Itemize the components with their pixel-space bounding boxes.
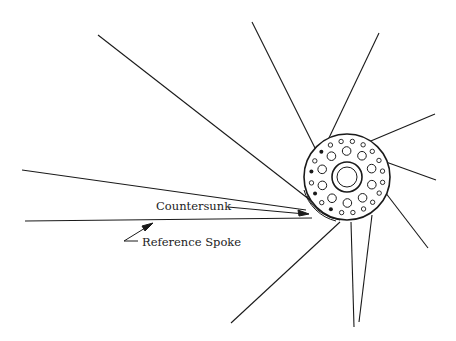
spoke-hole-small [370,149,374,153]
spoke [328,33,379,140]
wheel-diagram [0,0,456,341]
countersunk-label: Countersunk [156,199,231,213]
spoke-hole-large [358,194,367,203]
spoke-hole-small [361,143,365,147]
spoke-hole-small [313,159,317,163]
reference-spoke-label: Reference Spoke [142,235,241,249]
hub [304,134,390,221]
spoke-hole-filled [329,207,333,211]
spoke-hole-filled [313,192,317,196]
spoke-hole-large [367,164,376,173]
spoke-hole-filled [309,170,313,174]
spoke [25,218,312,221]
axle-inner [337,167,357,187]
spoke [385,192,428,248]
spoke-hole-small [380,169,384,173]
spoke-hole-small [328,143,332,147]
spoke-hole-small [351,210,355,214]
spoke [359,215,372,322]
spoke-hole-small [370,200,374,204]
spoke-hole-large [328,194,337,203]
spoke-hole-large [342,147,351,156]
spoke-hole-small [361,207,365,211]
spoke-hole-large [318,165,327,174]
spoke-hole-small [339,139,343,143]
spoke-hole-large [343,199,352,208]
spoke [231,222,340,323]
spoke-hole-small [380,180,384,184]
spoke-hole-small [377,191,381,195]
spoke [98,35,310,200]
spoke-hole-large [327,152,336,161]
spoke-hole-large [318,181,327,190]
spoke [366,114,435,143]
spoke [252,22,320,158]
spoke-hole-small [339,210,343,214]
spoke-hole-filled [319,150,323,154]
spoke-hole-large [358,151,367,160]
spoke-hole-small [350,139,354,143]
spoke-hole-small [377,158,381,162]
spoke [386,162,436,180]
spoke-hole-small [309,181,313,185]
spoke-hole-large [368,180,377,189]
spoke [351,222,354,327]
spoke-hole-small [320,200,324,204]
